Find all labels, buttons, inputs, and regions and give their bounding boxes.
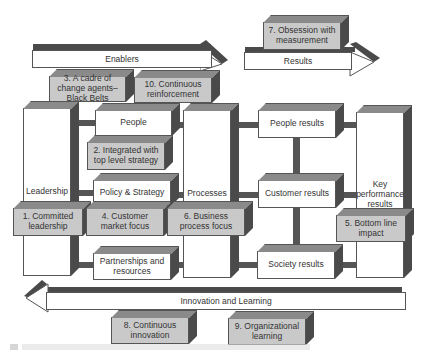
partnerships-label: Partnerships and resources — [94, 257, 170, 277]
key-performance-label: Key performance results — [354, 180, 406, 209]
results-arrow-label: Results — [244, 52, 352, 70]
people-box: People — [95, 110, 172, 136]
connector-processes-society-results — [238, 262, 258, 268]
factor-6-box: 6. Business process focus — [167, 208, 245, 236]
people-label: People — [118, 118, 148, 128]
factor-8-label: 8. Continuous innovation — [112, 321, 188, 341]
factor-10-box: 10. Continuous reinforcement — [134, 77, 212, 103]
processes-column: Processes — [183, 110, 231, 278]
factor-1-box: 1. Committed leadership — [13, 208, 83, 236]
factor-7-label: 7. Obsession with measurement — [264, 26, 340, 46]
factor-10-label: 10. Continuous reinforcement — [135, 80, 211, 100]
enablers-arrow-label: Enablers — [32, 50, 212, 68]
factor-4-box: 4. Customer market focus — [86, 208, 164, 236]
connector-leadership-people — [77, 120, 95, 126]
society-results-label: Society results — [266, 260, 325, 270]
leadership-column: Leadership — [23, 108, 71, 276]
policy-strategy-label: Policy & Strategy — [98, 188, 167, 198]
factor-2-label: 2. Integrated with top level strategy — [88, 146, 164, 166]
figure-caption-illegible — [10, 344, 310, 350]
connector-processes-people-results — [238, 122, 258, 128]
processes-label: Processes — [185, 189, 229, 199]
factor-3-box: 3. A cadre of change agents–Black Belts — [49, 76, 126, 102]
factor-6-label: 6. Business process focus — [168, 212, 244, 232]
factor-9-box: 9. Organizational learning — [228, 318, 306, 345]
connector-processes-customer-results — [238, 192, 258, 198]
people-results-label: People results — [268, 119, 326, 129]
leadership-label: Leadership — [24, 187, 70, 197]
factor-3-label: 3. A cadre of change agents–Black Belts — [50, 74, 125, 103]
people-results-box: People results — [258, 110, 336, 138]
factor-9-label: 9. Organizational learning — [229, 322, 305, 342]
factor-5-label: 5. Bottom line impact — [337, 219, 405, 239]
innovation-arrow-label: Innovation and Learning — [46, 292, 406, 310]
customer-results-box: Customer results — [258, 180, 336, 208]
customer-results-label: Customer results — [263, 189, 331, 199]
key-performance-column: Key performance results — [356, 112, 404, 278]
society-results-box: Society results — [257, 251, 335, 279]
factor-7-box: 7. Obsession with measurement — [263, 22, 341, 50]
factor-2-box: 2. Integrated with top level strategy — [87, 142, 165, 170]
partnerships-box: Partnerships and resources — [93, 253, 171, 280]
factor-1-label: 1. Committed leadership — [14, 212, 82, 232]
factor-8-box: 8. Continuous innovation — [111, 317, 189, 344]
factor-5-box: 5. Bottom line impact — [336, 215, 406, 242]
factor-4-label: 4. Customer market focus — [87, 212, 163, 232]
